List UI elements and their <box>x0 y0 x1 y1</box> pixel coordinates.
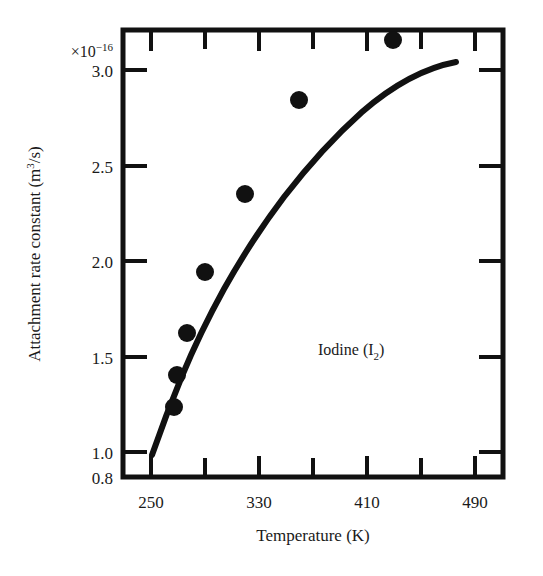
data-point <box>165 398 183 416</box>
y-tick-label: 1.0 <box>92 444 113 463</box>
y-axis-tick-labels: 3.0 2.5 2.0 1.5 1.0 0.8 <box>92 62 113 488</box>
data-point <box>236 185 254 203</box>
y-tick-label: 2.0 <box>92 253 113 272</box>
figure-container: ×10−16 3.0 2.5 2.0 1.5 1.0 0.8 250 330 4… <box>0 0 543 576</box>
x-axis-title: Temperature (K) <box>256 526 370 545</box>
y-axis-title: Attachment rate constant (m3/s) <box>24 146 44 362</box>
y-axis-multiplier-label: ×10−16 <box>71 41 114 60</box>
y-tick-label: 3.0 <box>92 62 113 81</box>
x-tick-label: 250 <box>138 493 164 512</box>
x-tick-label: 330 <box>246 493 272 512</box>
x-tick-label: 490 <box>462 493 488 512</box>
attachment-rate-constant-chart: ×10−16 3.0 2.5 2.0 1.5 1.0 0.8 250 330 4… <box>0 0 543 576</box>
data-point <box>168 366 186 384</box>
x-axis-tick-labels: 250 330 410 490 <box>138 493 488 512</box>
data-point <box>196 263 214 281</box>
data-point <box>178 324 196 342</box>
y-axis-start-label: 0.8 <box>92 469 113 488</box>
y-tick-label: 2.5 <box>92 158 113 177</box>
x-tick-label: 410 <box>354 493 380 512</box>
data-point <box>384 31 402 49</box>
y-tick-label: 1.5 <box>92 349 113 368</box>
data-point <box>290 91 308 109</box>
